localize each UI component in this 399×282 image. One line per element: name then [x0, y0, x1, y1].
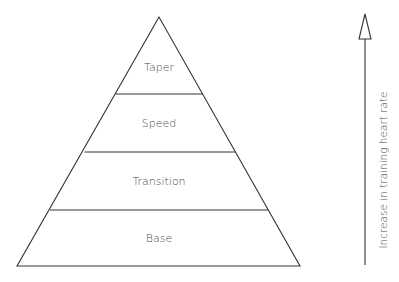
arrow-label: Increase in training heart rate	[377, 92, 389, 249]
pyramid-diagram: Taper Speed Transition Base Increase in …	[0, 0, 399, 282]
pyramid-outline	[17, 17, 300, 266]
level-transition-label: Transition	[132, 175, 185, 188]
up-arrow-icon	[359, 14, 371, 265]
level-taper-label: Taper	[144, 61, 174, 74]
level-base-label: Base	[146, 232, 172, 245]
level-speed-label: Speed	[142, 117, 176, 130]
